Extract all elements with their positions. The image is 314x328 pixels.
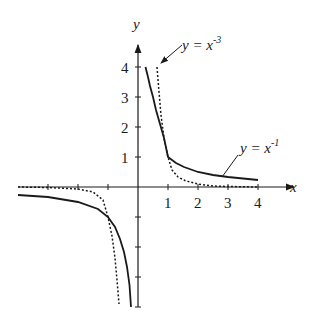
series-inv3-pos bbox=[157, 67, 258, 187]
y-axis-label: y bbox=[131, 16, 140, 32]
y-tick-3: 3 bbox=[121, 90, 129, 106]
y-tick-2: 2 bbox=[121, 120, 129, 136]
chart: 1 2 3 4 1 2 3 4 x y y = x-3 y = x-1 bbox=[0, 0, 314, 328]
series-inv3-neg bbox=[18, 187, 119, 304]
inv3-label: y = x-3 bbox=[180, 34, 221, 53]
x-axis-label: x bbox=[289, 179, 297, 195]
x-tick-2: 2 bbox=[194, 195, 202, 211]
inv1-pointer bbox=[222, 155, 238, 177]
inv3-pointer bbox=[161, 45, 182, 63]
inv1-label: y = x-1 bbox=[238, 137, 279, 156]
x-tick-1: 1 bbox=[164, 195, 172, 211]
x-tick-3: 3 bbox=[224, 195, 232, 211]
y-tick-1: 1 bbox=[121, 150, 129, 166]
x-tick-4: 4 bbox=[254, 195, 262, 211]
y-tick-4: 4 bbox=[121, 60, 129, 76]
